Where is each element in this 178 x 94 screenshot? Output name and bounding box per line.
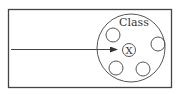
class-diagram: Class X (0, 0, 178, 94)
target-label: X (125, 45, 133, 56)
member-circle (106, 28, 120, 42)
member-circle (136, 62, 150, 76)
member-circle (151, 37, 165, 51)
member-circle (109, 61, 123, 75)
class-label: Class (119, 16, 149, 29)
